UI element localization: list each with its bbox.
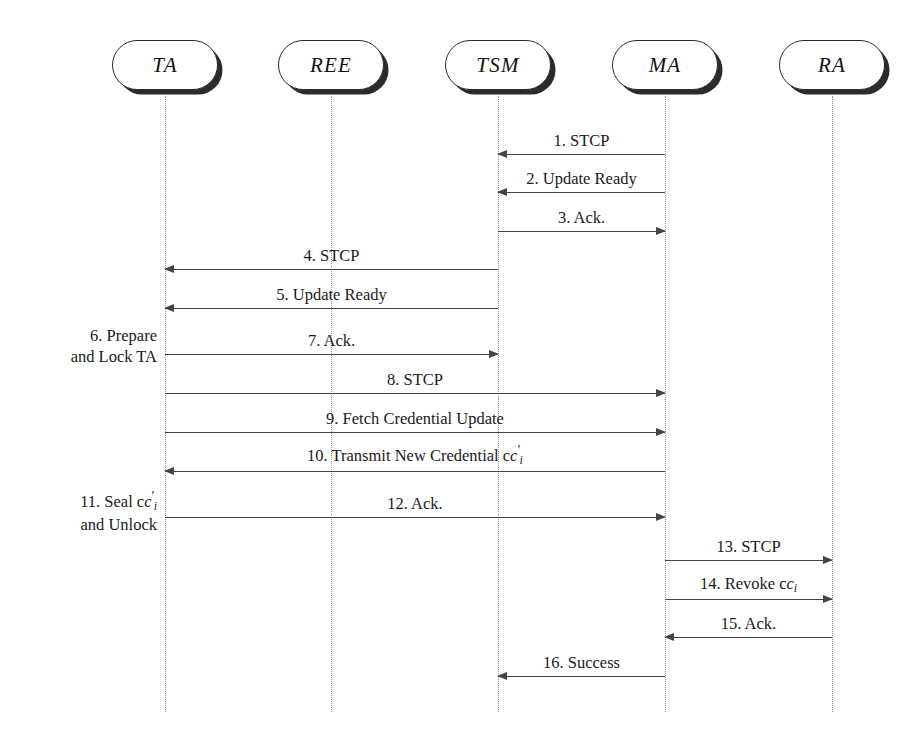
arrowhead-right-icon xyxy=(489,350,499,358)
message-label: 9. Fetch Credential Update xyxy=(165,410,665,428)
message-line xyxy=(165,308,498,309)
actor-label-ra: RA xyxy=(818,53,846,78)
message-label: 13. STCP xyxy=(665,538,832,556)
note-6: 6. Prepareand Lock TA xyxy=(71,325,157,367)
arrowhead-left-icon xyxy=(497,672,507,680)
running-head xyxy=(18,0,538,7)
actor-box-ta: TA xyxy=(112,40,218,90)
message-line xyxy=(665,560,832,561)
note-line-2: and Unlock xyxy=(80,514,157,535)
arrowhead-right-icon xyxy=(823,556,833,564)
message-label: 15. Ack. xyxy=(665,615,832,633)
arrowhead-right-icon xyxy=(656,389,666,397)
message-line xyxy=(165,432,665,433)
arrowhead-left-icon xyxy=(664,633,674,641)
lifeline-ree xyxy=(331,96,332,712)
message-line xyxy=(498,192,665,193)
arrowhead-left-icon xyxy=(164,265,174,273)
arrowhead-left-icon xyxy=(164,467,174,475)
lifeline-ta xyxy=(165,96,166,712)
message-line xyxy=(165,269,498,270)
lifeline-ra xyxy=(832,96,833,712)
arrowhead-left-icon xyxy=(497,188,507,196)
arrowhead-right-icon xyxy=(656,428,666,436)
actor-label-ree: REE xyxy=(310,53,352,78)
message-line xyxy=(665,599,832,600)
actor-label-ma: MA xyxy=(649,53,682,78)
message-label: 7. Ack. xyxy=(165,332,498,350)
arrowhead-left-icon xyxy=(164,304,174,312)
arrowhead-right-icon xyxy=(823,595,833,603)
note-line-2: and Lock TA xyxy=(71,346,157,367)
arrowhead-right-icon xyxy=(656,227,666,235)
message-line xyxy=(165,354,498,355)
message-label: 3. Ack. xyxy=(498,209,665,227)
arrowhead-right-icon xyxy=(656,513,666,521)
arrowhead-left-icon xyxy=(497,150,507,158)
message-line xyxy=(165,393,665,394)
message-label: 8. STCP xyxy=(165,371,665,389)
note-11: 11. Seal cc′iand Unlock xyxy=(80,488,157,535)
message-label: 16. Success xyxy=(498,654,665,672)
actor-label-tsm: TSM xyxy=(476,53,519,78)
note-line-1: 6. Prepare xyxy=(71,325,157,346)
message-label: 1. STCP xyxy=(498,132,665,150)
message-line xyxy=(665,637,832,638)
message-line xyxy=(498,154,665,155)
message-label: 2. Update Ready xyxy=(498,170,665,188)
actor-box-ree: REE xyxy=(278,40,384,90)
message-label: 5. Update Ready xyxy=(165,286,498,304)
message-label: 10. Transmit New Credential cc′i xyxy=(165,444,665,467)
message-line xyxy=(165,517,665,518)
message-line xyxy=(165,471,665,472)
actor-box-tsm: TSM xyxy=(445,40,551,90)
actor-box-ra: RA xyxy=(779,40,885,90)
sequence-diagram: TAREETSMMARA1. STCP2. Update Ready3. Ack… xyxy=(0,0,923,748)
actor-box-ma: MA xyxy=(612,40,718,90)
message-label: 4. STCP xyxy=(165,247,498,265)
message-label: 14. Revoke cci xyxy=(665,575,832,595)
note-line-1: 11. Seal cc′i xyxy=(80,488,157,514)
message-line xyxy=(498,676,665,677)
message-line xyxy=(498,231,665,232)
message-label: 12. Ack. xyxy=(165,495,665,513)
actor-label-ta: TA xyxy=(152,53,177,78)
